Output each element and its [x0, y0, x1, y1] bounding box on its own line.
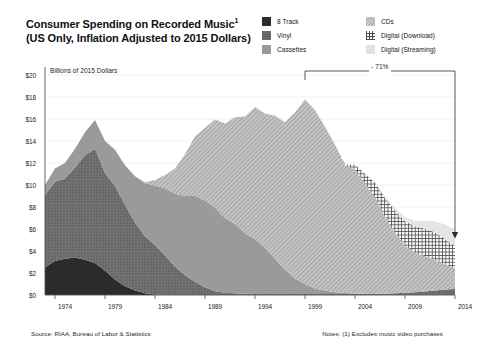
y-tick-label: $4	[14, 248, 36, 255]
x-tick-label: 2009	[408, 303, 448, 310]
y-tick-label: $2	[14, 270, 36, 277]
x-tick-label: 1984	[158, 303, 198, 310]
x-tick-label: 1994	[258, 303, 298, 310]
y-tick-label: $12	[14, 160, 36, 167]
x-tick-label: 1999	[308, 303, 348, 310]
y-tick-label: $20	[14, 72, 36, 79]
y-tick-label: $14	[14, 138, 36, 145]
y-tick-label: $10	[14, 182, 36, 189]
y-tick-label: $8	[14, 204, 36, 211]
annotation-label: - 71%	[371, 63, 388, 70]
y-tick-label: $6	[14, 226, 36, 233]
x-tick-label: 2004	[358, 303, 398, 310]
y-tick-label: $16	[14, 116, 36, 123]
source-note: Source: RIAA, Bureau of Labor & Statisti…	[31, 330, 151, 337]
y-axis-title: Billions of 2015 Dollars	[50, 67, 117, 74]
footnote-note: Notes: (1) Excludes music video purchase…	[322, 330, 443, 337]
y-tick-label: $18	[14, 94, 36, 101]
x-tick-label: 1979	[108, 303, 148, 310]
x-tick-label: 1989	[208, 303, 248, 310]
x-tick-label: 1974	[58, 303, 98, 310]
x-tick-label: 2014	[458, 303, 477, 310]
y-tick-label: $0	[14, 292, 36, 299]
